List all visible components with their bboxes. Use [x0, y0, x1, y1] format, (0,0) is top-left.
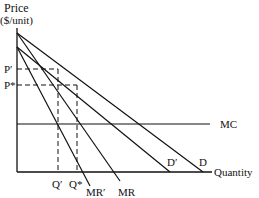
price-axis-label: Price [4, 2, 29, 14]
price-axis-unit: ($/unit) [0, 14, 33, 26]
p-prime-label: P′ [4, 63, 13, 75]
demand-prime-label: D′ [167, 156, 177, 168]
clipped-title-fragment [0, 0, 259, 1]
mr-label: MR [118, 186, 135, 198]
quantity-axis-label: Quantity [214, 166, 253, 178]
q-prime-label: Q′ [52, 178, 62, 190]
mc-label: MC [220, 118, 237, 130]
demand-curve [17, 33, 203, 172]
mr-prime-label: MR′ [86, 186, 106, 198]
mr-prime-curve [17, 47, 90, 186]
q-star-label: Q* [69, 178, 82, 190]
mr-curve [17, 33, 120, 181]
demand-label: D [199, 156, 207, 168]
p-star-label: P* [4, 79, 16, 91]
demand-prime-curve [17, 47, 170, 172]
